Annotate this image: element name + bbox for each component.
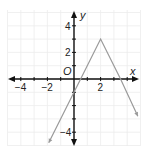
x-axis-label: x [129, 65, 136, 77]
coordinate-plane-chart: x y O −4−2242−4 [0, 0, 147, 149]
y-tick-label: −4 [60, 127, 72, 138]
y-tick-label: 4 [65, 21, 71, 32]
y-axis-label: y [79, 9, 87, 21]
y-axis-down-arrow-icon [71, 139, 77, 146]
x-tick-label: −4 [15, 82, 27, 93]
y-tick-label: 2 [65, 47, 71, 58]
y-axis-up-arrow-icon [71, 11, 77, 18]
axes [8, 11, 139, 146]
origin-label: O [63, 65, 72, 77]
x-tick-label: 2 [98, 82, 104, 93]
x-tick-label: −2 [41, 82, 53, 93]
